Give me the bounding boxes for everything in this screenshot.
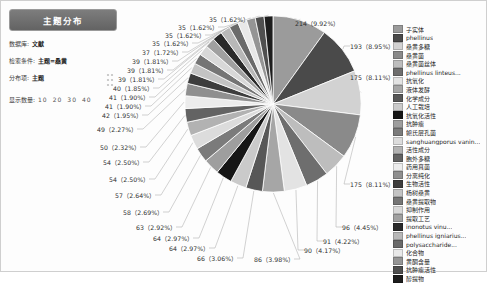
leader-line [296, 190, 304, 250]
legend-item[interactable]: phellinus linteus... [393, 68, 485, 77]
legend-swatch [393, 223, 403, 231]
legend-swatch [393, 249, 403, 257]
legend-swatch [393, 232, 403, 240]
legend-item[interactable]: 杨树桑黄 [393, 188, 485, 197]
legend-label: 桑黄菌丝体 [406, 59, 436, 68]
legend-item[interactable]: 子实体 [393, 25, 485, 34]
legend-item[interactable]: polysaccharide... [393, 240, 485, 249]
legend-swatch [393, 25, 403, 33]
leader-line [237, 191, 254, 258]
legend-swatch [393, 120, 403, 128]
legend-label: phellinus [406, 34, 433, 41]
legend-item[interactable]: 分离纯化 [393, 171, 485, 180]
legend-item[interactable]: 胞外多糖 [393, 154, 485, 163]
legend-item[interactable]: 抗氧化活性 [393, 111, 485, 120]
legend-swatch [393, 266, 403, 274]
legend-item[interactable]: 化学成分 [393, 94, 485, 103]
legend-swatch [393, 257, 403, 265]
legend-item[interactable]: 桑黄提取物 [393, 197, 485, 206]
legend-label: 醇提物 [406, 274, 424, 283]
legend-swatch [393, 77, 403, 85]
legend-swatch [393, 42, 403, 50]
leader-line [209, 186, 238, 248]
legend-label: polysaccharide... [406, 241, 457, 248]
legend-swatch [393, 34, 403, 42]
legend-swatch [393, 103, 403, 111]
legend-item[interactable]: inonotus vinu... [393, 223, 485, 232]
leader-line [140, 102, 184, 147]
legend-item[interactable]: 抗肿瘤活性 [393, 266, 485, 275]
legend-item[interactable]: 药用真菌 [393, 163, 485, 172]
legend-item[interactable]: 活性成分 [393, 145, 485, 154]
legend-swatch [393, 154, 403, 162]
legend-label: inonotus vinu... [406, 223, 452, 230]
legend-swatch [393, 85, 403, 93]
legend-swatch [393, 214, 403, 222]
legend-swatch [393, 180, 403, 188]
legend-label: phellinus igniarius... [406, 232, 466, 239]
pie-slices[interactable] [184, 15, 362, 193]
legend-item[interactable]: 人工栽培 [393, 102, 485, 111]
legend-item[interactable]: 桑黄菌 [393, 51, 485, 60]
legend-label: 提取工艺 [406, 214, 430, 223]
legend-swatch [393, 206, 403, 214]
legend-item[interactable]: 抑制作用 [393, 205, 485, 214]
legend-item[interactable]: 生物活性 [393, 180, 485, 189]
legend-item[interactable]: phellinus igniarius... [393, 231, 485, 240]
legend-swatch [393, 197, 403, 205]
legend-item[interactable]: 黄酮含量 [393, 257, 485, 266]
legend: 子实体phellinus桑黄多糖桑黄菌桑黄菌丝体phellinus linteu… [393, 25, 485, 283]
legend-label: 子实体 [406, 25, 424, 34]
legend-item[interactable]: 桑黄多糖 [393, 42, 485, 51]
legend-label: 鲍氏层孔菌 [406, 128, 436, 137]
legend-item[interactable]: 抗肿瘤 [393, 120, 485, 129]
legend-swatch [393, 275, 403, 283]
leader-line [273, 193, 300, 259]
legend-swatch [393, 137, 403, 145]
leader-line [143, 116, 185, 162]
legend-swatch [393, 240, 403, 248]
legend-swatch [393, 60, 403, 68]
legend-item[interactable]: 液体发酵 [393, 85, 485, 94]
legend-item[interactable]: 桑黄菌丝体 [393, 59, 485, 68]
legend-swatch [393, 146, 403, 154]
leader-line [142, 78, 188, 115]
legend-item[interactable]: sanghuangporus vanin... [393, 137, 485, 146]
legend-item[interactable]: 醇提物 [393, 274, 485, 283]
legend-swatch [393, 171, 403, 179]
legend-item[interactable]: 鲍氏层孔菌 [393, 128, 485, 137]
legend-item[interactable]: 化合物 [393, 248, 485, 257]
legend-swatch [393, 94, 403, 102]
legend-item[interactable]: phellinus [393, 34, 485, 43]
legend-swatch [393, 111, 403, 119]
legend-swatch [393, 51, 403, 59]
legend-item[interactable]: 提取工艺 [393, 214, 485, 223]
legend-swatch [393, 163, 403, 171]
legend-swatch [393, 68, 403, 76]
pie-chart[interactable] [184, 15, 362, 193]
legend-label: phellinus linteus... [406, 69, 461, 76]
legend-item[interactable]: 抗氧化 [393, 77, 485, 86]
legend-swatch [393, 128, 403, 136]
legend-swatch [393, 189, 403, 197]
legend-label: sanghuangporus vanin... [406, 138, 480, 145]
